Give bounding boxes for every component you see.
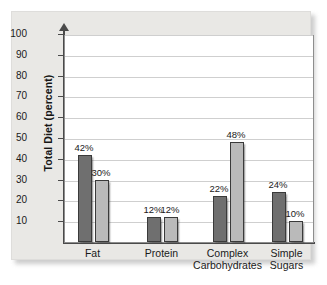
y-axis-tick [58, 34, 63, 35]
y-axis-tick [58, 96, 63, 97]
y-axis-tick [58, 200, 63, 201]
y-axis-tick [58, 138, 63, 139]
x-axis-category-label: SimpleSugars [244, 248, 327, 271]
y-axis-tick [58, 180, 63, 181]
bar [147, 217, 161, 242]
y-axis-tick-label: 90 [0, 50, 27, 60]
bar-value-label: 22% [202, 184, 236, 194]
bar-value-label: 12% [153, 205, 187, 215]
bar-value-label: 30% [84, 168, 118, 178]
bar [95, 180, 109, 242]
gridline [65, 35, 313, 36]
y-axis-tick-label: 40 [0, 154, 27, 164]
bar-value-label: 42% [67, 143, 101, 153]
y-axis-arrowhead-icon [59, 23, 69, 31]
bar [213, 196, 227, 242]
y-axis-tick-label: 30 [0, 175, 27, 185]
category-label-line: Simple [244, 248, 327, 260]
y-axis-tick [58, 76, 63, 77]
bar-value-label: 24% [261, 180, 295, 190]
y-axis-tick [58, 55, 63, 56]
y-axis-tick [58, 221, 63, 222]
y-axis-tick-label: 50 [0, 133, 27, 143]
y-axis-tick-label: 60 [0, 112, 27, 122]
bar-value-label: 10% [278, 209, 312, 219]
plot-area [64, 35, 314, 243]
gridline [65, 97, 313, 98]
chart-figure: Total Diet (percent) 1020304050607080901… [0, 0, 327, 285]
gridline [65, 77, 313, 78]
gridline [65, 56, 313, 57]
bar [289, 221, 303, 242]
y-axis-tick-label: 20 [0, 195, 27, 205]
y-axis-tick-label: 10 [0, 216, 27, 226]
gridline [65, 118, 313, 119]
y-axis-tick-label: 70 [0, 91, 27, 101]
chart-panel: Total Diet (percent) 1020304050607080901… [11, 11, 311, 260]
y-axis-title: Total Diet (percent) [42, 48, 54, 198]
y-axis-tick-label: 80 [0, 71, 27, 81]
y-axis-tick [58, 159, 63, 160]
y-axis-tick-label: 100 [0, 29, 27, 39]
gridline [65, 139, 313, 140]
bar [164, 217, 178, 242]
y-axis-tick [58, 117, 63, 118]
bar-value-label: 48% [219, 130, 253, 140]
gridline [65, 160, 313, 161]
category-label-line: Sugars [244, 260, 327, 272]
